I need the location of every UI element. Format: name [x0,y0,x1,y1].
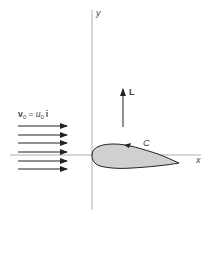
lift-label: L [129,87,135,97]
y-axis-label: y [95,8,101,18]
contour-label: C [143,137,150,148]
x-axis-label: x [195,155,201,165]
airfoil-shape [92,144,179,168]
free-stream-arrows [18,126,67,169]
airfoil-flow-diagram: y x v0 = u0i L C [0,0,211,263]
free-stream-velocity-label: v0 = u0i [18,109,48,120]
